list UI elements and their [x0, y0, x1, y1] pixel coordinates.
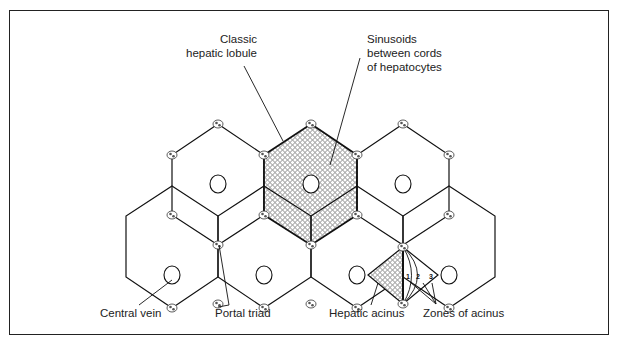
hexagon-diagram: 1 2 3 — [0, 0, 619, 345]
central-vein-label: Central vein — [100, 306, 161, 320]
zone-3-label: 3 — [429, 273, 433, 280]
zone-2-label: 2 — [416, 273, 420, 280]
hepatic-acinus-label: Hepatic acinus — [329, 306, 404, 320]
zone-1-label: 1 — [406, 273, 410, 280]
zones-of-acinus-label: Zones of acinus — [423, 306, 504, 320]
hepatic-acinus — [368, 247, 438, 304]
label-classic-lobule: Classic hepatic lobule — [180, 32, 257, 60]
portal-triad-label: Portal triad — [215, 306, 271, 320]
label-sinusoids: Sinusoids between cords of hepatocytes — [367, 32, 442, 74]
